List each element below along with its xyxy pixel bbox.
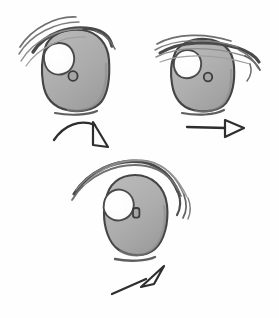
sketch-page <box>0 0 279 318</box>
iris-highlight <box>174 50 201 78</box>
pupil-mark <box>133 208 139 218</box>
pupil-mark <box>204 73 212 82</box>
iris-highlight <box>104 190 134 221</box>
arrow-shaft <box>187 127 226 128</box>
sketch-canvas <box>0 0 279 318</box>
iris-highlight <box>44 43 74 75</box>
pupil-mark <box>68 71 77 81</box>
